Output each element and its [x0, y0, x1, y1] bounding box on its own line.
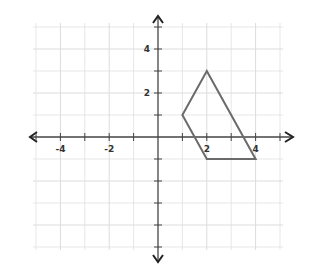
x-tick-label: -4: [55, 144, 65, 154]
x-tick-label: 2: [204, 144, 210, 154]
x-tick-label: 4: [252, 144, 258, 154]
y-tick-label: 2: [144, 88, 150, 98]
coordinate-plane: -4-22442: [0, 0, 310, 276]
x-tick-label: -2: [104, 144, 114, 154]
y-tick-label: 4: [144, 44, 150, 54]
